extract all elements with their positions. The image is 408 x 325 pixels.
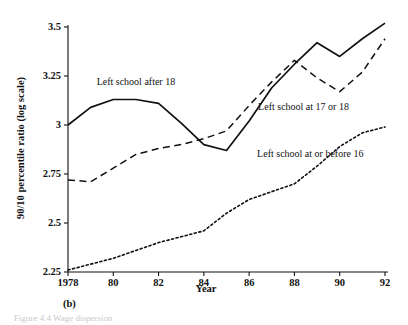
x-tick-label: 82 xyxy=(153,277,164,288)
y-axis-ticks: 2.252.52.7533.253.5 xyxy=(43,21,68,277)
y-axis-title: 90/10 percentile ratio (log scale) xyxy=(15,76,27,219)
line-chart: 2.252.52.7533.253.5 197880828486889092 L… xyxy=(0,0,408,325)
series-label: Left school at 17 or 18 xyxy=(258,101,349,112)
x-tick-label: 80 xyxy=(108,277,119,288)
y-tick-label: 2.25 xyxy=(43,266,61,277)
series-lines xyxy=(68,23,385,270)
x-tick-label: 90 xyxy=(334,277,345,288)
y-tick-label: 3.25 xyxy=(43,70,61,81)
x-tick-label: 92 xyxy=(380,277,391,288)
y-tick-label: 2.5 xyxy=(48,217,61,228)
y-tick-label: 3 xyxy=(56,119,61,130)
x-tick-label: 1978 xyxy=(58,277,79,288)
y-tick-label: 2.75 xyxy=(43,168,61,179)
x-tick-label: 88 xyxy=(289,277,300,288)
x-axis-title: Year xyxy=(196,283,217,294)
series-label: Left school at or before 16 xyxy=(257,148,363,159)
series-label: Left school after 18 xyxy=(97,76,176,87)
x-tick-label: 86 xyxy=(244,277,255,288)
panel-label: (b) xyxy=(63,298,76,310)
figure-panel-b: 2.252.52.7533.253.5 197880828486889092 L… xyxy=(0,0,408,325)
cropped-figure-caption: Figure 4.4 Wage dispersion xyxy=(14,314,210,323)
y-tick-label: 3.5 xyxy=(48,21,61,32)
x-axis-ticks: 197880828486889092 xyxy=(58,272,391,288)
